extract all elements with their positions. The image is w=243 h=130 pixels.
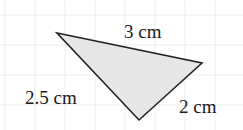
side-label-left: 2.5 cm xyxy=(25,88,77,107)
side-label-right: 2 cm xyxy=(179,97,216,116)
side-label-top: 3 cm xyxy=(124,22,161,41)
triangle-diagram: 3 cm 2.5 cm 2 cm xyxy=(0,0,243,130)
